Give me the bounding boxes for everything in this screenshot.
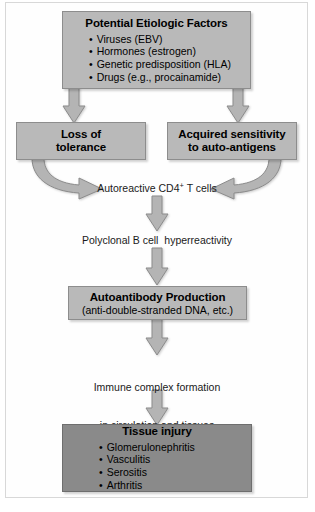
loss-of-tolerance-line1: Loss of (17, 128, 145, 141)
acquired-sensitivity-line2: to auto-antigens (168, 141, 296, 154)
arrow-factors-to-tolerance (62, 86, 86, 124)
node-etiologic-factors: Potential Etiologic Factors Viruses (EBV… (62, 11, 251, 89)
list-item: Vasculitis (99, 453, 241, 466)
list-item: Viruses (EBV) (89, 33, 240, 46)
node-loss-of-tolerance: Loss of tolerance (16, 122, 146, 160)
node-tissue-injury: Tissue injury Glomerulonephritis Vasculi… (62, 424, 252, 492)
arrow-autoantibody-to-immunecomplex (145, 318, 169, 356)
autoreactive-t-cells-text-after: T cells (184, 182, 217, 194)
arrow-tcells-to-bcells (145, 196, 169, 232)
list-item: Serositis (99, 466, 241, 479)
node-polyclonal-b-cell: Polyclonal B cell hyperreactivity (57, 234, 257, 247)
autoantibody-production-title: Autoantibody Production (69, 291, 246, 304)
node-autoantibody-production: Autoantibody Production (anti-double-str… (68, 286, 247, 320)
loss-of-tolerance-line2: tolerance (17, 141, 145, 154)
list-item: Drugs (e.g., procainamide) (89, 71, 240, 84)
arrow-factors-to-sensitivity (226, 86, 250, 124)
etiologic-factors-title: Potential Etiologic Factors (73, 17, 240, 30)
autoantibody-production-subtitle: (anti-double-stranded DNA, etc.) (69, 304, 246, 316)
tissue-injury-list: Glomerulonephritis Vasculitis Serositis … (73, 441, 241, 491)
list-item: Genetic predisposition (HLA) (89, 58, 240, 71)
list-item: Hormones (estrogen) (89, 45, 240, 58)
tissue-injury-title: Tissue injury (73, 425, 241, 438)
acquired-sensitivity-line1: Acquired sensitivity (168, 128, 296, 141)
etiologic-factors-list: Viruses (EBV) Hormones (estrogen) Geneti… (73, 33, 240, 83)
autoreactive-t-cells-text-before: Autoreactive CD4 (97, 182, 179, 194)
node-acquired-sensitivity: Acquired sensitivity to auto-antigens (167, 122, 297, 160)
list-item: Glomerulonephritis (99, 441, 241, 454)
node-autoreactive-t-cells: Autoreactive CD4+ T cells (82, 182, 232, 195)
immune-complex-line1: Immune complex formation (57, 381, 257, 394)
diagram-canvas: Potential Etiologic Factors Viruses (EBV… (0, 0, 315, 512)
list-item: Arthritis (99, 479, 241, 492)
arrow-bcells-to-autoantibody (145, 248, 169, 286)
